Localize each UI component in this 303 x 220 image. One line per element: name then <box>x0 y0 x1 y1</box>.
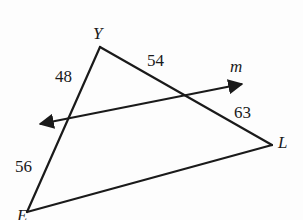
measure-label-63: 63 <box>234 104 251 121</box>
measure-label-48: 48 <box>55 68 72 85</box>
vertex-label-E: E <box>17 207 27 220</box>
geometry-figure: Y E L 48 54 63 56 m <box>0 0 303 220</box>
line-label-m: m <box>230 58 242 75</box>
measure-label-54: 54 <box>147 52 164 69</box>
segment-EL <box>27 145 272 212</box>
line-m <box>40 84 242 124</box>
vertex-label-Y: Y <box>93 25 102 42</box>
figure-canvas <box>0 0 303 220</box>
measure-label-56: 56 <box>15 158 32 175</box>
vertex-label-L: L <box>278 134 287 151</box>
